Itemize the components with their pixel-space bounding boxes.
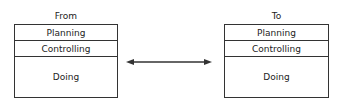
- double-arrow-icon: [0, 0, 342, 108]
